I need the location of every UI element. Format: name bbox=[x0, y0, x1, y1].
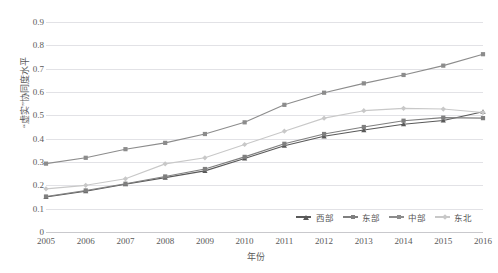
series-line bbox=[46, 108, 483, 189]
data-point-marker bbox=[242, 142, 247, 147]
data-point-marker bbox=[202, 155, 207, 160]
data-point-marker bbox=[123, 147, 127, 151]
data-point-marker bbox=[203, 132, 207, 136]
data-point-marker bbox=[441, 116, 445, 120]
series-东北 bbox=[43, 106, 485, 192]
data-point-marker bbox=[361, 108, 366, 113]
x-axis-tick: 2011 bbox=[264, 236, 304, 246]
chart-canvas bbox=[0, 0, 498, 273]
data-point-marker bbox=[123, 182, 127, 186]
x-axis-tick: 2015 bbox=[423, 236, 463, 246]
legend-label: 西部 bbox=[316, 211, 334, 223]
legend-label: 东部 bbox=[362, 211, 380, 223]
data-point-marker bbox=[84, 188, 88, 192]
x-axis-tick: 2010 bbox=[225, 236, 265, 246]
x-axis-tick: 2012 bbox=[304, 236, 344, 246]
data-point-marker bbox=[321, 116, 326, 121]
data-point-marker bbox=[322, 132, 326, 136]
data-point-marker bbox=[43, 186, 48, 191]
legend-label: 中部 bbox=[408, 211, 426, 223]
data-point-marker bbox=[441, 106, 446, 111]
x-axis-title: 年份 bbox=[247, 250, 265, 263]
data-point-marker bbox=[44, 162, 48, 166]
data-point-marker bbox=[243, 155, 247, 159]
data-point-marker bbox=[441, 64, 445, 68]
x-axis-tick: 2007 bbox=[106, 236, 146, 246]
data-point-marker bbox=[203, 167, 207, 171]
data-point-marker bbox=[362, 81, 366, 85]
x-axis-tick: 2013 bbox=[344, 236, 384, 246]
legend-marker-square-icon bbox=[397, 215, 401, 219]
series-东部 bbox=[44, 116, 485, 199]
data-point-marker bbox=[401, 106, 406, 111]
chart-legend: 西部东部中部东北 bbox=[296, 211, 472, 223]
x-axis-tick: 2008 bbox=[145, 236, 185, 246]
data-point-marker bbox=[480, 110, 485, 115]
data-point-marker bbox=[83, 183, 88, 188]
x-axis-tick: 2005 bbox=[26, 236, 66, 246]
data-point-marker bbox=[282, 142, 286, 146]
data-point-marker bbox=[243, 120, 247, 124]
chart-figure: 0.90.80.70.60.50.40.30.20.10 “虚实”协同度水平 年… bbox=[0, 0, 498, 273]
x-axis-tick: 2006 bbox=[66, 236, 106, 246]
series-line bbox=[46, 118, 483, 197]
data-point-marker bbox=[123, 176, 128, 181]
data-point-marker bbox=[401, 73, 405, 77]
data-point-marker bbox=[401, 119, 405, 123]
legend-label: 东北 bbox=[454, 211, 472, 223]
data-point-marker bbox=[163, 174, 167, 178]
data-point-marker bbox=[282, 129, 287, 134]
legend-item-中部[interactable]: 中部 bbox=[389, 211, 426, 223]
data-point-marker bbox=[163, 161, 168, 166]
data-point-marker bbox=[481, 52, 485, 56]
legend-marker-triangle-icon bbox=[303, 215, 309, 220]
x-axis-tick: 2016 bbox=[463, 236, 498, 246]
x-axis-tick: 2009 bbox=[185, 236, 225, 246]
x-axis-tick: 2014 bbox=[384, 236, 424, 246]
data-point-marker bbox=[481, 116, 485, 120]
data-point-marker bbox=[163, 141, 167, 145]
legend-item-东部[interactable]: 东部 bbox=[343, 211, 380, 223]
legend-item-东北[interactable]: 东北 bbox=[435, 211, 472, 223]
legend-item-西部[interactable]: 西部 bbox=[296, 211, 334, 223]
series-line bbox=[46, 112, 483, 197]
data-point-marker bbox=[362, 125, 366, 129]
data-point-marker bbox=[44, 194, 48, 198]
data-point-marker bbox=[282, 103, 286, 107]
legend-marker-square-icon bbox=[351, 215, 355, 219]
data-point-marker bbox=[84, 156, 88, 160]
data-point-marker bbox=[322, 91, 326, 95]
series-西部 bbox=[43, 109, 485, 199]
legend-marker-diamond-icon bbox=[442, 214, 448, 220]
